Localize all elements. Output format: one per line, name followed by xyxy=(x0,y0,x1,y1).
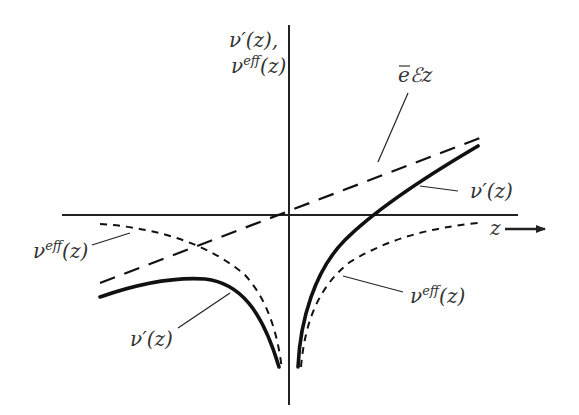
v-eff-left-label: νeff(z) xyxy=(33,238,88,263)
y-axis-label-line1: ν′(z), xyxy=(229,28,278,52)
v-eff-left-curve xyxy=(100,224,282,370)
y-axis-label-line2: νeff(z) xyxy=(231,53,286,78)
leader-v-prime-right xyxy=(420,186,458,191)
leader-v-eff-right xyxy=(343,276,403,292)
leader-v-eff-left xyxy=(92,233,130,245)
v-eff-right-label: νeff(z) xyxy=(410,283,465,308)
v-prime-left-label: ν′(z) xyxy=(130,327,173,351)
leader-v-prime-left xyxy=(178,293,230,328)
x-axis-label: z xyxy=(489,216,501,240)
potential-diagram: ν′(z), νeff(z) eℰz ν′(z) z νeff(z) νeff(… xyxy=(0,0,579,415)
v-prime-right-curve xyxy=(298,146,478,367)
leader-field-line xyxy=(378,93,408,162)
v-prime-right-label: ν′(z) xyxy=(470,179,513,203)
v-prime-left-curve xyxy=(100,279,279,367)
